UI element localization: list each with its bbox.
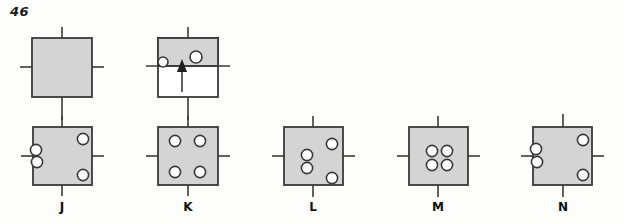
option-label-N[interactable]: N: [543, 200, 583, 214]
option-label-K[interactable]: K: [168, 200, 208, 214]
hole: [326, 172, 337, 183]
stimulus-figure-1: [20, 27, 104, 109]
stimulus-box-1: [32, 38, 92, 97]
hole: [30, 144, 41, 155]
hole: [441, 159, 452, 170]
puzzle-page: 46: [0, 0, 624, 224]
option-box: [409, 127, 468, 185]
figure-canvas: [0, 0, 624, 224]
hole: [441, 145, 452, 156]
hole: [577, 169, 588, 180]
hole: [194, 166, 205, 177]
option-J[interactable]: [21, 116, 104, 196]
hole: [190, 51, 202, 63]
hole: [31, 156, 42, 167]
hole: [77, 133, 88, 144]
option-N[interactable]: [521, 114, 604, 197]
option-M[interactable]: [397, 116, 480, 197]
hole: [301, 149, 312, 160]
hole: [169, 135, 180, 146]
hole: [530, 143, 541, 154]
hole: [326, 138, 337, 149]
option-L[interactable]: [272, 116, 355, 197]
stimulus-row: [20, 27, 230, 120]
hole: [531, 156, 542, 167]
hole: [426, 145, 437, 156]
hole: [301, 162, 312, 173]
option-row: [21, 114, 604, 197]
option-label-J[interactable]: J: [42, 200, 82, 214]
hole: [169, 166, 180, 177]
hole: [426, 159, 437, 170]
option-label-M[interactable]: M: [418, 200, 458, 214]
hole: [77, 169, 88, 180]
option-K[interactable]: [146, 116, 230, 196]
option-box: [158, 127, 218, 185]
hole: [158, 57, 168, 67]
option-label-L[interactable]: L: [293, 200, 333, 214]
hole: [577, 134, 588, 145]
hole: [194, 135, 205, 146]
stimulus-figure-2: [146, 27, 230, 109]
